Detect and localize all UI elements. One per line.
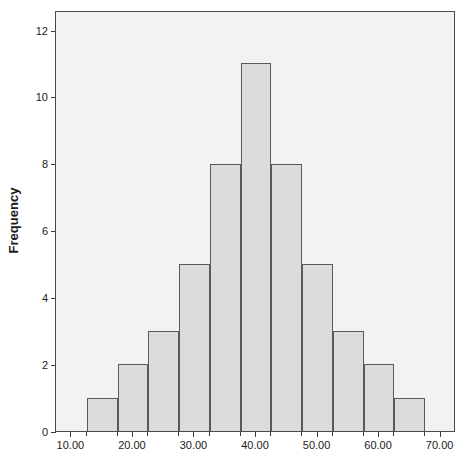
x-axis-minor-tick — [424, 432, 425, 436]
y-axis: 024681012 — [0, 0, 56, 468]
x-axis-tick-mark — [378, 432, 379, 437]
x-axis-tick-label: 50.00 — [303, 439, 331, 451]
x-axis-minor-tick — [86, 432, 87, 436]
x-axis-tick-mark — [70, 432, 71, 437]
histogram-bar — [333, 331, 364, 431]
x-axis-minor-tick — [178, 432, 179, 436]
histogram-bar — [118, 364, 149, 431]
histogram-chart: Frequency 024681012 10.0020.0030.0040.00… — [0, 0, 473, 468]
y-axis-tick-label: 2 — [42, 360, 51, 371]
x-axis-tick-label: 20.00 — [118, 439, 146, 451]
x-axis-tick-label: 60.00 — [364, 439, 392, 451]
y-axis-tick-label: 10 — [36, 92, 51, 103]
histogram-bar — [87, 398, 118, 431]
histogram-bar — [148, 331, 179, 431]
x-axis-minor-tick — [147, 432, 148, 436]
x-axis: 10.0020.0030.0040.0050.0060.0070.00 — [55, 432, 455, 468]
x-axis-tick-mark — [440, 432, 441, 437]
x-axis-minor-tick — [270, 432, 271, 436]
x-axis-minor-tick — [117, 432, 118, 436]
x-axis-tick-mark — [317, 432, 318, 437]
histogram-bar — [210, 164, 241, 431]
x-axis-tick-label: 10.00 — [57, 439, 85, 451]
histogram-bar — [241, 63, 272, 431]
y-axis-tick-label: 4 — [42, 293, 51, 304]
x-axis-minor-tick — [332, 432, 333, 436]
plot-area — [55, 11, 455, 432]
x-axis-tick-label: 40.00 — [241, 439, 269, 451]
histogram-bar — [364, 364, 395, 431]
x-axis-minor-tick — [209, 432, 210, 436]
histogram-bar — [302, 264, 333, 431]
x-axis-minor-tick — [240, 432, 241, 436]
x-axis-minor-tick — [301, 432, 302, 436]
histogram-bar — [179, 264, 210, 431]
x-axis-tick-label: 70.00 — [426, 439, 454, 451]
y-axis-tick-label: 8 — [42, 159, 51, 170]
histogram-bar — [271, 164, 302, 431]
x-axis-minor-tick — [393, 432, 394, 436]
y-axis-tick-label: 12 — [36, 26, 51, 37]
histogram-bar — [394, 398, 425, 431]
x-axis-tick-mark — [193, 432, 194, 437]
bars-layer — [56, 12, 454, 431]
y-axis-tick-label: 6 — [42, 226, 51, 237]
x-axis-minor-tick — [363, 432, 364, 436]
x-axis-tick-mark — [132, 432, 133, 437]
x-axis-tick-label: 30.00 — [180, 439, 208, 451]
y-axis-tick-label: 0 — [42, 427, 51, 438]
x-axis-tick-mark — [255, 432, 256, 437]
